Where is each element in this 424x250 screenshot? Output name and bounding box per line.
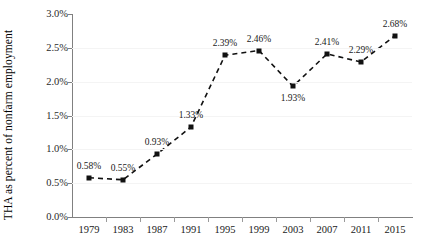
gridline [72,149,412,150]
x-axis-tick-mark [242,217,243,222]
data-point-marker [223,53,228,58]
x-axis-tick-mark [106,217,107,222]
x-axis-tick-mark [378,217,379,222]
y-axis-tick-label: 0.5% [24,178,68,188]
y-axis-tick-label: 3.0% [24,9,68,19]
y-axis-tick-label: 0.0% [24,212,68,222]
x-axis-tick-mark [208,217,209,222]
y-axis-tick-label: 1.0% [24,144,68,154]
data-point-marker [291,84,296,89]
data-point-label: 2.46% [247,34,272,44]
y-axis-tick-mark [68,14,72,15]
data-point-marker [121,177,126,182]
x-axis-tick-mark [344,217,345,222]
y-axis-tick-label: 1.5% [24,111,68,121]
data-point-label: 1.33% [179,110,204,120]
y-axis-tick-label: 2.0% [24,77,68,87]
data-point-marker [359,60,364,65]
y-axis-tick-label: 2.5% [24,43,68,53]
x-axis-tick-label: 2015 [371,224,419,236]
data-point-marker [155,152,160,157]
data-point-marker [393,33,398,38]
y-axis-tick-mark [68,217,72,218]
y-axis-title: THA as percent of nonfarm employment [0,0,16,250]
data-point-marker [325,51,330,56]
plot-area: 0.58%0.55%0.93%1.33%2.39%2.46%1.93%2.41%… [72,14,412,217]
data-point-label: 0.93% [145,137,170,147]
x-axis-tick-mark [140,217,141,222]
data-point-marker [189,125,194,130]
x-axis-tick-mark [276,217,277,222]
x-axis-tick-mark [310,217,311,222]
gridline [72,183,412,184]
data-point-label: 2.29% [349,45,374,55]
x-axis-tick-mark [174,217,175,222]
data-point-label: 2.39% [213,38,238,48]
data-point-label: 1.93% [281,93,306,103]
data-point-marker [87,175,92,180]
chart-container: THA as percent of nonfarm employment 0.0… [0,0,424,250]
y-axis-tick-labels: 0.0%0.5%1.0%1.5%2.0%2.5%3.0% [18,0,68,250]
data-point-label: 2.41% [315,37,340,47]
data-point-label: 0.58% [77,161,102,171]
gridline [72,82,412,83]
data-point-marker [257,48,262,53]
data-point-label: 2.68% [383,19,408,29]
gridline [72,116,412,117]
data-point-label: 0.55% [111,163,136,173]
